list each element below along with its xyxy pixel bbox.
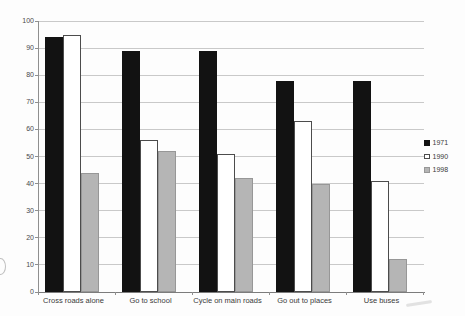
legend-swatch-icon-1998 (424, 167, 430, 173)
bar-1990-0 (63, 35, 81, 292)
bar-1971-2 (199, 51, 217, 292)
legend-item-1990: 1990 (424, 153, 448, 161)
bar-1990-2 (217, 154, 235, 292)
gridline-90 (39, 48, 424, 49)
y-tick-70 (35, 102, 39, 103)
bar-1971-3 (276, 81, 294, 292)
y-tick-100 (35, 21, 39, 22)
bar-1971-0 (45, 37, 63, 292)
y-axis-label-100: 100 (0, 17, 34, 25)
bar-1998-2 (235, 178, 253, 292)
bar-1990-4 (371, 181, 389, 292)
y-axis-label-80: 80 (0, 71, 34, 79)
y-axis-label-70: 70 (0, 98, 34, 106)
y-axis-line (38, 21, 39, 293)
legend-item-1971: 1971 (424, 139, 448, 147)
bar-1971-1 (122, 51, 140, 292)
x-axis-label-0: Cross roads alone (35, 296, 112, 305)
bar-1990-3 (294, 121, 312, 292)
bar-1998-1 (158, 151, 176, 292)
x-tick-3 (269, 292, 270, 295)
legend-item-1998: 1998 (424, 166, 448, 174)
bar-1998-0 (81, 173, 99, 292)
y-axis-label-60: 60 (0, 125, 34, 133)
y-axis-label-30: 30 (0, 207, 34, 215)
x-tick-5 (423, 292, 424, 295)
y-axis-label-0: 0 (0, 288, 34, 296)
plot-area (39, 21, 424, 292)
y-tick-90 (35, 48, 39, 49)
legend-label-1998: 1998 (433, 166, 449, 174)
legend-label-1971: 1971 (433, 139, 449, 147)
y-tick-20 (35, 237, 39, 238)
x-tick-4 (346, 292, 347, 295)
y-axis-label-20: 20 (0, 234, 34, 242)
y-tick-30 (35, 210, 39, 211)
legend-swatch-icon-1971 (424, 140, 430, 146)
bar-1990-1 (140, 140, 158, 292)
y-tick-40 (35, 183, 39, 184)
gridline-100 (39, 21, 424, 22)
y-tick-10 (35, 264, 39, 265)
bar-chart: 0102030405060708090100 Cross roads alone… (0, 0, 465, 316)
bar-1998-3 (312, 184, 330, 292)
x-tick-2 (192, 292, 193, 295)
x-axis-label-2: Cycle on main roads (189, 296, 266, 305)
x-axis-label-1: Go to school (112, 296, 189, 305)
gridline-80 (39, 75, 424, 76)
y-tick-50 (35, 156, 39, 157)
x-tick-1 (115, 292, 116, 295)
x-axis-label-3: Go out to places (266, 296, 343, 305)
y-tick-80 (35, 75, 39, 76)
x-axis-line (39, 292, 425, 293)
legend-label-1990: 1990 (433, 153, 449, 161)
x-tick-0 (38, 292, 39, 295)
y-axis-label-90: 90 (0, 44, 34, 52)
y-axis-label-50: 50 (0, 153, 34, 161)
y-axis-label-40: 40 (0, 180, 34, 188)
bar-1971-4 (353, 81, 371, 292)
legend-swatch-icon-1990 (424, 154, 430, 160)
bar-1998-4 (389, 259, 407, 292)
y-tick-60 (35, 129, 39, 130)
